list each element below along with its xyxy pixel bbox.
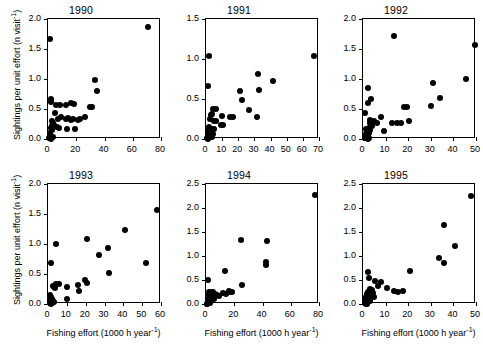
data-point <box>404 104 410 110</box>
data-point <box>94 88 100 94</box>
x-tick <box>142 302 143 306</box>
data-point <box>154 207 160 213</box>
x-tick <box>263 302 264 306</box>
x-tick <box>431 302 432 306</box>
y-tick <box>44 244 48 245</box>
x-tick-label: 50 <box>470 144 480 154</box>
y-tick <box>202 208 206 209</box>
y-tick <box>359 19 363 20</box>
y-axis-label: Sightings per unit effort (n visit-1) <box>9 10 22 140</box>
x-tick <box>238 137 239 141</box>
plot-area <box>205 18 318 138</box>
x-tick-label: 20 <box>232 144 242 154</box>
x-tick-label: 70 <box>313 144 323 154</box>
y-tick-label: 2.5 <box>330 178 356 188</box>
data-point <box>209 134 215 140</box>
data-point <box>264 238 270 244</box>
x-tick-label: 20 <box>80 309 90 319</box>
x-tick-label: 0 <box>44 144 49 154</box>
data-point <box>381 128 387 134</box>
x-tick-label: 50 <box>470 309 480 319</box>
x-tick <box>67 302 68 306</box>
x-tick <box>271 137 272 141</box>
x-tick <box>254 137 255 141</box>
data-point <box>365 85 371 91</box>
data-point <box>53 241 59 247</box>
data-point <box>64 296 70 302</box>
data-point <box>229 289 235 295</box>
data-point <box>400 288 406 294</box>
data-point <box>362 110 368 116</box>
data-point <box>384 285 390 291</box>
data-point <box>46 135 52 141</box>
y-tick-label: 0.0 <box>330 298 356 308</box>
data-point <box>145 24 151 30</box>
data-point <box>230 114 236 120</box>
x-tick <box>408 302 409 306</box>
data-point <box>64 284 70 290</box>
data-point <box>452 243 458 249</box>
data-point <box>312 192 318 198</box>
x-tick-label: 50 <box>136 309 146 319</box>
x-tick <box>408 137 409 141</box>
data-point <box>263 262 269 268</box>
x-tick <box>476 137 477 141</box>
y-tick <box>44 184 48 185</box>
x-tick-label: 20 <box>70 144 80 154</box>
x-tick-label: 50 <box>281 144 291 154</box>
data-point <box>406 118 412 124</box>
x-tick <box>222 137 223 141</box>
x-tick-label: 0 <box>359 309 364 319</box>
data-point <box>255 71 261 77</box>
data-point <box>254 114 260 120</box>
y-tick-label: 0.0 <box>173 298 199 308</box>
y-tick-label: 2.0 <box>173 202 199 212</box>
data-point <box>407 268 413 274</box>
data-point <box>463 76 469 82</box>
y-tick <box>359 49 363 50</box>
y-tick <box>359 232 363 233</box>
x-tick-label: 60 <box>155 309 165 319</box>
data-point <box>371 294 377 300</box>
data-point <box>82 114 88 120</box>
data-point <box>256 87 262 93</box>
x-tick <box>453 302 454 306</box>
data-point <box>468 193 474 199</box>
data-point <box>205 83 211 89</box>
x-tick <box>105 137 106 141</box>
x-tick-label: 40 <box>98 144 108 154</box>
x-tick-label: 80 <box>313 309 323 319</box>
x-tick <box>476 302 477 306</box>
data-point <box>365 100 371 106</box>
data-point <box>48 260 54 266</box>
data-point <box>378 114 384 120</box>
y-tick <box>359 256 363 257</box>
data-point <box>367 117 373 123</box>
data-point <box>220 122 226 128</box>
x-tick-label: 10 <box>216 144 226 154</box>
data-point <box>437 95 443 101</box>
y-tick <box>44 214 48 215</box>
data-point <box>222 268 228 274</box>
x-tick-label: 40 <box>265 144 275 154</box>
data-point <box>64 126 70 132</box>
x-tick <box>386 137 387 141</box>
x-tick <box>431 137 432 141</box>
plot-area <box>47 183 160 303</box>
y-tick <box>202 256 206 257</box>
plot-area <box>362 183 475 303</box>
y-tick-label: 2.0 <box>330 202 356 212</box>
y-tick <box>202 184 206 185</box>
x-tick <box>319 137 320 141</box>
data-point <box>239 282 245 288</box>
y-tick <box>44 79 48 80</box>
y-tick-label: 2.5 <box>173 178 199 188</box>
x-tick-label: 60 <box>127 144 137 154</box>
data-point <box>246 107 252 113</box>
x-tick-label: 20 <box>402 144 412 154</box>
data-point <box>53 102 59 108</box>
data-point <box>76 288 82 294</box>
x-tick-label: 0 <box>202 309 207 319</box>
plot-area <box>362 18 475 138</box>
x-tick <box>86 302 87 306</box>
